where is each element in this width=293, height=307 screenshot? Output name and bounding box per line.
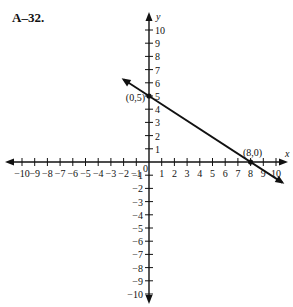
data-point bbox=[146, 93, 151, 98]
y-tick-label: −10 bbox=[127, 289, 143, 300]
y-tick-label: 9 bbox=[155, 38, 160, 49]
y-tick-label: −7 bbox=[132, 249, 143, 260]
x-tick-label: −6 bbox=[67, 168, 78, 179]
y-tick-label: 10 bbox=[155, 25, 165, 36]
x-tick-label: −5 bbox=[80, 168, 91, 179]
y-tick-label: −6 bbox=[132, 236, 143, 247]
x-tick-label: 5 bbox=[210, 168, 215, 179]
y-tick-label: −1 bbox=[132, 170, 143, 181]
x-tick-label: −9 bbox=[29, 168, 40, 179]
y-tick-label: 8 bbox=[155, 51, 160, 62]
x-tick-label: 0 bbox=[143, 163, 148, 174]
x-tick-label: −4 bbox=[93, 168, 104, 179]
y-tick-label: −9 bbox=[132, 276, 143, 287]
y-axis-up-arrow-icon bbox=[146, 12, 153, 21]
point-label: (0,5) bbox=[126, 92, 145, 104]
y-tick-label: 4 bbox=[155, 104, 160, 115]
x-tick-label: 2 bbox=[172, 168, 177, 179]
x-tick-label: 1 bbox=[159, 168, 164, 179]
x-tick-label: −7 bbox=[55, 168, 66, 179]
line-arrow-left-icon bbox=[122, 78, 132, 86]
coordinate-plane: xy−10−9−8−7−6−5−4−3−2−1012345678910−10−9… bbox=[0, 0, 293, 307]
x-tick-label: −8 bbox=[42, 168, 53, 179]
y-tick-label: −2 bbox=[132, 183, 143, 194]
y-tick-label: 6 bbox=[155, 78, 160, 89]
y-tick-label: −4 bbox=[132, 210, 143, 221]
x-tick-label: −10 bbox=[14, 168, 30, 179]
x-tick-label: 7 bbox=[235, 168, 240, 179]
y-tick-label: −5 bbox=[132, 223, 143, 234]
x-tick-label: 6 bbox=[223, 168, 228, 179]
x-tick-label: 8 bbox=[248, 168, 253, 179]
y-tick-label: 3 bbox=[155, 117, 160, 128]
y-tick-label: 1 bbox=[155, 144, 160, 155]
y-tick-label: −8 bbox=[132, 263, 143, 274]
point-label: (8,0) bbox=[243, 147, 262, 159]
x-axis-left-arrow-icon bbox=[5, 159, 14, 166]
y-tick-label: 2 bbox=[155, 131, 160, 142]
x-tick-label: 4 bbox=[197, 168, 202, 179]
data-point bbox=[248, 159, 253, 164]
y-axis-label: y bbox=[155, 11, 161, 22]
x-tick-label: −3 bbox=[106, 168, 117, 179]
y-tick-label: −3 bbox=[132, 197, 143, 208]
x-tick-label: −2 bbox=[118, 168, 129, 179]
x-tick-label: 3 bbox=[185, 168, 190, 179]
x-axis-right-arrow-icon bbox=[279, 159, 288, 166]
y-axis-down-arrow-icon bbox=[146, 295, 153, 304]
x-axis-label: x bbox=[284, 148, 290, 159]
y-tick-label: 7 bbox=[155, 65, 160, 76]
